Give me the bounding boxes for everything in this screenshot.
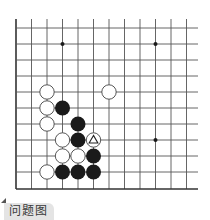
black-stone [71,117,86,132]
white-stone [40,117,54,131]
go-board [0,0,210,200]
black-stone [55,165,70,180]
white-stone [40,165,54,179]
black-stone [55,101,70,116]
black-stone [71,165,86,180]
white-stone [55,149,69,163]
white-stone [102,85,116,99]
star-point-icon [61,42,65,46]
black-stone [86,149,101,164]
caption-label: 问题图 [9,203,48,220]
star-point-icon [154,138,158,142]
white-stone [71,149,85,163]
white-stone [55,133,69,147]
caption-tab: 问题图 [4,203,54,220]
black-stone [71,133,86,148]
white-stone [40,101,54,115]
star-point-icon [154,42,158,46]
black-stone [86,165,101,180]
white-stone [40,85,54,99]
